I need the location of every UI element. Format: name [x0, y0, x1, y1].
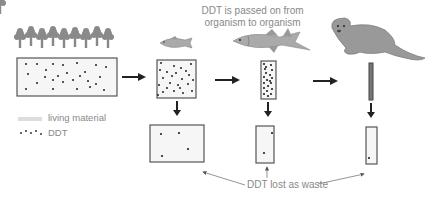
- down-arrows: [173, 101, 375, 118]
- flow-arrows: [122, 73, 338, 85]
- arrow-down-icon: [367, 103, 375, 118]
- caption-line-2: organism to organism: [180, 17, 325, 28]
- living-material-swatch: [18, 117, 42, 121]
- arrow-right-icon: [313, 77, 338, 85]
- large-fish-icon: [233, 28, 310, 53]
- small-fish-icon: [160, 36, 192, 48]
- caption-line-1: DDT is passed on from: [180, 5, 325, 16]
- diagram-canvas: [0, 0, 440, 200]
- arrow-right-icon: [122, 73, 146, 81]
- small-fish-waste-box: [150, 125, 204, 162]
- otter-waste-box: [366, 127, 377, 164]
- otter-icon: [332, 18, 425, 60]
- arrow-down-icon: [264, 102, 272, 117]
- legend-living-material-label: living material: [48, 112, 106, 123]
- legend-ddt-label: DDT: [48, 127, 68, 138]
- arrow-down-icon: [173, 101, 181, 116]
- ddt-legend-dots: [20, 130, 42, 135]
- plants-box: [17, 58, 117, 96]
- waste-label: DDT lost as waste: [247, 179, 328, 190]
- large-fish-waste-box: [256, 126, 274, 163]
- otter-box: [369, 63, 373, 100]
- trees-icon: [0, 0, 114, 48]
- arrow-right-icon: [215, 76, 240, 84]
